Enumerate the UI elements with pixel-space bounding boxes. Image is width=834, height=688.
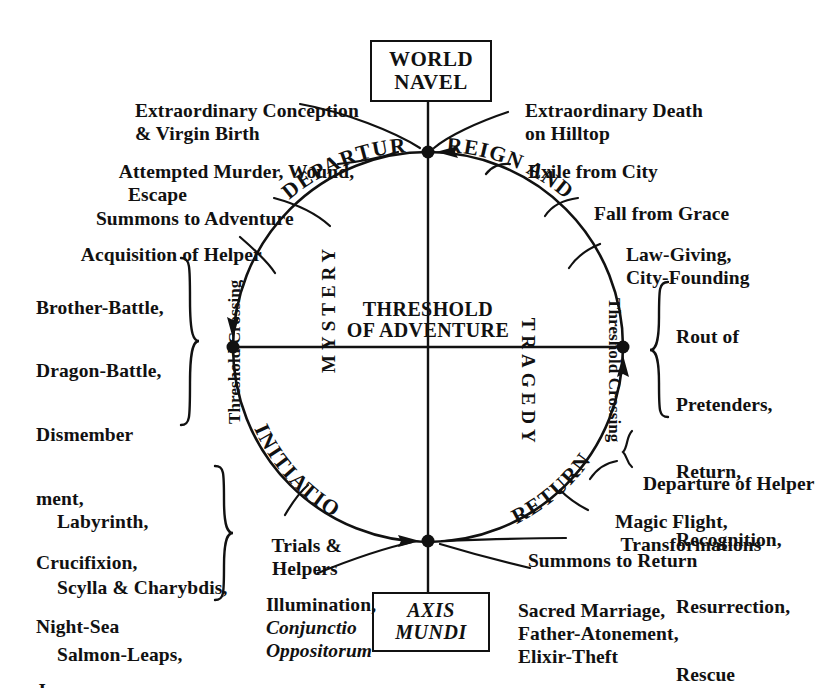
list-item: Pretenders,: [676, 394, 790, 417]
list-item: Dragon-Battle,: [36, 360, 164, 381]
arrow-top: [436, 146, 458, 158]
threshold-crossing-left-text: Threshold Crossing: [225, 280, 244, 424]
axis-mundi-label: AXIS MUNDI: [395, 600, 466, 643]
tragedy-text: TRAGEDY: [518, 318, 539, 448]
world-navel-label: WORLD NAVEL: [389, 48, 473, 93]
line-text: Exile from City: [528, 161, 658, 182]
line-text: Summons to Return: [528, 550, 698, 571]
list-item: Brother-Battle,: [36, 297, 164, 318]
node-world-navel: [422, 146, 435, 159]
list-item: Scylla & Charybdis,: [57, 577, 227, 599]
hero-cycle-diagram: DEPARTURE REIGN AND DEATH INITIATION RET…: [0, 0, 834, 688]
mystery-text: MYSTERY: [318, 244, 339, 373]
list-item: Salmon-Leaps,: [57, 644, 227, 666]
hemisphere-label-tragedy: TRAGEDY: [496, 279, 561, 448]
stage-oppositorum: Oppositorum: [246, 618, 372, 685]
list-item: Rescue: [676, 664, 790, 687]
list-item: Rout of: [676, 326, 790, 349]
hemisphere-label-mystery: MYSTERY: [296, 244, 361, 412]
lower-left-bracket-list: Labyrinth, Scylla & Charybdis, Salmon-Le…: [57, 466, 227, 688]
list-item: Labyrinth,: [57, 511, 227, 533]
arc-label-return: RETURN: [508, 448, 597, 529]
node-axis-mundi: [422, 535, 435, 548]
axis-mundi-box: AXIS MUNDI: [372, 592, 490, 652]
threshold-crossing-left: Threshold Crossing: [206, 280, 264, 441]
list-item: Dismember: [36, 424, 164, 445]
arrow-bottom: [398, 535, 420, 547]
line-text: Oppositorum: [266, 640, 372, 661]
list-item: Resurrection,: [676, 596, 790, 619]
stage-elixir-theft: Elixir-Theft: [498, 624, 618, 688]
threshold-crossing-right-text: Threshold Crossing: [605, 298, 624, 442]
world-navel-box: WORLD NAVEL: [370, 40, 492, 102]
center-threshold-text: THRESHOLD OF ADVENTURE: [347, 298, 509, 341]
line-text: Elixir-Theft: [518, 646, 618, 667]
